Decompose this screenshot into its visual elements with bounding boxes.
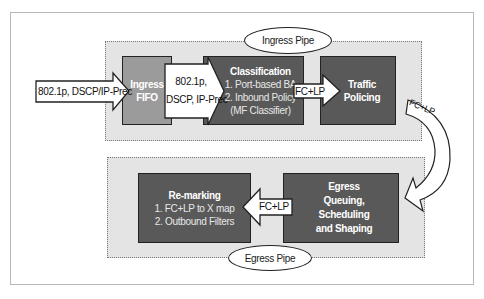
egress-pipe-label: Egress Pipe — [228, 245, 312, 271]
arrow-to-classification-icon — [165, 57, 224, 125]
arrow-to-classification-label-2: DSCP, IP-Prec — [166, 94, 218, 106]
arrow-to-classification-label-1: 802.1p, — [166, 76, 216, 88]
ingress-pipe-label: Ingress Pipe — [244, 27, 332, 54]
arrow-to-remarking-label: FC+LP — [258, 201, 290, 213]
input-arrow-label: 802.1p, DSCP/IP-Prec — [38, 86, 113, 98]
curved-arrow-icon — [405, 100, 450, 211]
arrow-to-policing-label: FC+LP — [295, 86, 325, 98]
